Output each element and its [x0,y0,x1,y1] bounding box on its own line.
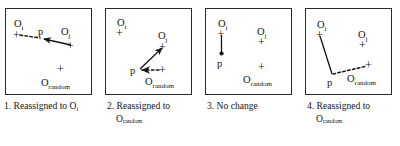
panel-1-p-label: p [38,26,43,37]
panel-3-orandom-label: Orandom [243,74,273,88]
panel-4-orandom-label: Orandom [347,73,377,87]
panel-4: + Oi + Oj + Orandom p [305,8,392,95]
panel-4-p-label: p [327,77,332,88]
panel-1-caption: 1. Reassigned to Oi [4,100,78,113]
panel-1-edge-oi-p [20,35,40,38]
panel-2-oi-plus: + [116,26,123,40]
panel-2-caption-sub2: random [123,117,142,124]
panel-1-orandom-plus: + [57,62,64,76]
panel-3-orandom-plus: + [258,60,265,74]
panel-2-caption-line1: 2. Reassigned to [107,100,170,111]
panel-3-p-label: p [217,58,222,69]
panel-1: + Oi p + Oj + Orandom [5,8,92,95]
figure-reassignment-cases: + Oi p + Oj + Orandom 1. Reassigned to O… [0,0,400,146]
panel-2-caption: 2. Reassigned to Orandom [107,100,170,125]
panel-1-diagram: + Oi p + Oj + Orandom [5,8,92,95]
panel-2: + Oi + Oj + Orandom p [105,8,192,95]
panel-2-p-label: p [130,65,135,76]
panel-1-oi-plus: + [13,28,20,42]
panel-4-oi-plus: + [316,28,323,42]
panel-1-oj-plus: + [67,39,74,53]
panel-1-caption-sub1: i [76,105,78,112]
panel-4-diagram: + Oi + Oj + Orandom p [305,8,392,95]
panel-3-p-dot [219,51,223,55]
panel-3-caption-line1: 3. No change [207,100,258,111]
panel-2-caption-line2: Orandom [107,113,170,126]
panel-4-orandom-plus: + [365,58,372,72]
panel-2-orandom-plus: + [159,63,166,77]
panel-3: + Oi p + Oj + Orandom [205,8,292,95]
panel-3-caption: 3. No change [207,100,258,113]
panel-2-diagram: + Oi + Oj + Orandom p [105,8,192,95]
panel-4-caption-sub2: random [323,117,342,124]
panel-1-oj-label: Oj [61,26,71,40]
panel-4-caption: 4. Reassigned to Orandom [307,100,370,125]
panel-1-caption-line1: 1. Reassigned to O [4,100,76,111]
panel-2-orandom-label: Orandom [145,76,175,90]
panel-1-orandom-label: Orandom [41,77,71,91]
panel-4-caption-line2: Orandom [307,113,370,126]
panel-4-caption-line1: 4. Reassigned to [307,100,370,111]
panel-3-oi-plus: + [218,27,225,41]
panel-3-diagram: + Oi p + Oj + Orandom [205,8,292,95]
